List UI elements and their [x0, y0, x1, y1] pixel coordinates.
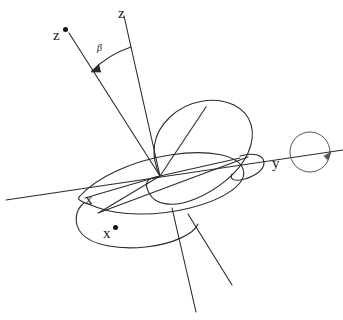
ellipse-right-lobe: [231, 154, 264, 180]
diagram-canvas: z z β x x y: [0, 0, 343, 320]
ellipse-secondary-orbital-plane: [79, 153, 244, 214]
spoke-origin-to-rim-upper: [160, 107, 206, 176]
diagram-vector-layer: [0, 0, 343, 320]
axis-label-x-star: x: [103, 226, 111, 241]
axis-label-x-star-marker: [113, 225, 118, 230]
angle-label-beta: β: [97, 43, 102, 53]
axis-label-z-star-marker: [63, 27, 68, 32]
axis-line-z-star-negative: [188, 214, 232, 285]
angle-arc-beta-arrowhead: [91, 64, 101, 72]
axis-line-z-negative: [172, 208, 196, 312]
axis-label-z: z: [118, 6, 125, 21]
axis-label-x: x: [85, 192, 93, 207]
rotation-indicator-circle: [290, 132, 330, 172]
axis-line-z-positive: [124, 16, 160, 176]
axis-label-z-star: z: [53, 28, 60, 43]
axis-line-x: [6, 150, 343, 200]
axis-label-y: y: [272, 156, 280, 171]
